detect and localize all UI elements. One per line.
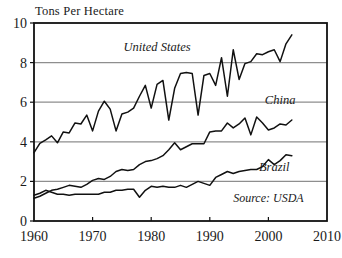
- x-tick-label: 2010: [313, 229, 341, 244]
- x-tick-label: 1970: [79, 229, 107, 244]
- y-tick-label: 10: [13, 16, 27, 31]
- x-tick-label: 1980: [137, 229, 165, 244]
- x-tick-label: 2000: [254, 229, 282, 244]
- data-series-group: [34, 35, 292, 198]
- y-tick-label: 8: [20, 56, 27, 71]
- series-label-united-states: United States: [124, 40, 191, 54]
- series-label-brazil: Brazil: [259, 160, 290, 174]
- y-tick-label: 2: [20, 174, 27, 189]
- y-tick-label: 0: [20, 214, 27, 229]
- chart-plot-area: 0246810 196019701980199020002010 United …: [0, 0, 342, 258]
- series-label-china: China: [265, 93, 296, 107]
- x-tick-label: 1960: [20, 229, 48, 244]
- y-tick-label: 6: [20, 95, 27, 110]
- source-annotation: Source: USDA: [233, 191, 304, 205]
- yield-line-chart: Tons Per Hectare 0246810 196019701980199…: [0, 0, 342, 258]
- y-tick-label: 4: [20, 135, 27, 150]
- y-axis-ticks-group: 0246810: [13, 16, 34, 229]
- x-tick-label: 1990: [196, 229, 224, 244]
